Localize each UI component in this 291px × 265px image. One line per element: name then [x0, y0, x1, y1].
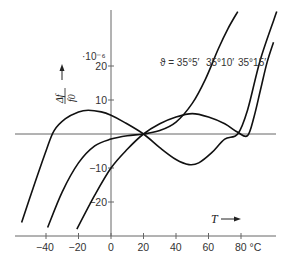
x-tick-label: −20	[69, 241, 87, 253]
x-axis-title: T	[211, 212, 219, 226]
curve-35-5	[22, 12, 277, 223]
series-label-35-10: 35°10′	[206, 57, 234, 68]
y-tick-label: 10	[95, 94, 107, 106]
curve-35-10	[48, 12, 238, 228]
chart: −40−20020406080 °C 2010−10−20 ·10⁻⁶ Δf f…	[0, 0, 291, 265]
x-tick-label: 0	[108, 241, 114, 253]
curves	[22, 12, 277, 230]
y-axis-label: Δf f0	[54, 88, 77, 104]
x-tick-label: 80 °C	[235, 241, 262, 253]
y-label-numerator: Δf	[54, 93, 65, 104]
series-label-35-5: ϑ = 35°5′	[160, 57, 200, 68]
x-tick-label: −40	[36, 241, 54, 253]
y-label-denominator: f0	[66, 94, 77, 102]
y-axis-arrow-icon	[60, 64, 65, 80]
y-tick-label: −10	[89, 162, 107, 174]
x-tick-label: 20	[138, 241, 150, 253]
x-axis-arrow-icon	[221, 217, 241, 222]
x-tick-label: 40	[170, 241, 182, 253]
y-unit-label: ·10⁻⁶	[82, 51, 106, 62]
series-label-35-15: 35°15′	[238, 57, 266, 68]
x-tick-label: 60	[203, 241, 215, 253]
